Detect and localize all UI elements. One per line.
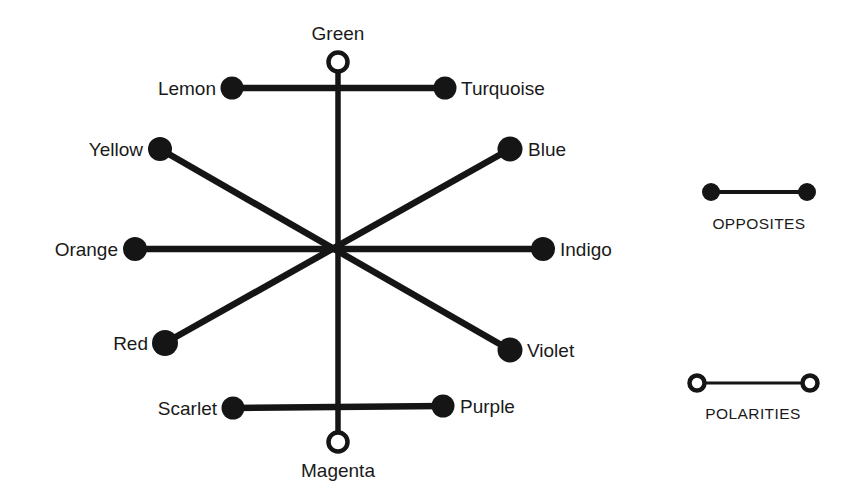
node-label-green: Green (312, 23, 365, 44)
colour-star-diagram: Green Lemon Turquoise Yellow Blue Orange… (0, 0, 861, 499)
legend-opposites: OPPOSITES (702, 183, 816, 232)
node-dot-purple[interactable] (432, 395, 455, 418)
legend-polarities: POLARITIES (690, 376, 818, 423)
node-label-red: Red (113, 333, 148, 354)
node-label-magenta: Magenta (301, 460, 375, 481)
node-dot-scarlet[interactable] (222, 397, 245, 420)
node-label-turquoise: Turquoise (461, 78, 545, 99)
spoke-group (135, 62, 543, 442)
node-dot-lemon[interactable] (221, 77, 244, 100)
diagram-canvas: Green Lemon Turquoise Yellow Blue Orange… (0, 0, 861, 499)
node-label-scarlet: Scarlet (158, 398, 218, 419)
node-label-purple: Purple (460, 396, 515, 417)
node-label-lemon: Lemon (158, 78, 216, 99)
node-dot-indigo[interactable] (531, 237, 555, 261)
node-label-yellow: Yellow (89, 139, 144, 160)
legend-polarities-label: POLARITIES (705, 405, 800, 422)
node-dot-blue[interactable] (498, 137, 523, 162)
node-label-orange: Orange (55, 239, 118, 260)
node-label-indigo: Indigo (560, 239, 612, 260)
node-dot-yellow[interactable] (148, 137, 172, 161)
legend-opposites-dot-left (702, 183, 720, 201)
node-dot-red[interactable] (152, 330, 178, 356)
node-circle-green[interactable] (329, 53, 348, 72)
node-circle-magenta[interactable] (329, 433, 348, 452)
legend-opposites-label: OPPOSITES (712, 215, 805, 232)
legend-polarities-circle-right (803, 376, 818, 391)
node-label-violet: Violet (527, 340, 575, 361)
legend-polarities-circle-left (690, 376, 705, 391)
node-dot-violet[interactable] (498, 338, 523, 363)
node-label-blue: Blue (528, 139, 566, 160)
node-dot-orange[interactable] (123, 237, 147, 261)
legend-opposites-dot-right (798, 183, 816, 201)
node-dot-turquoise[interactable] (434, 77, 457, 100)
